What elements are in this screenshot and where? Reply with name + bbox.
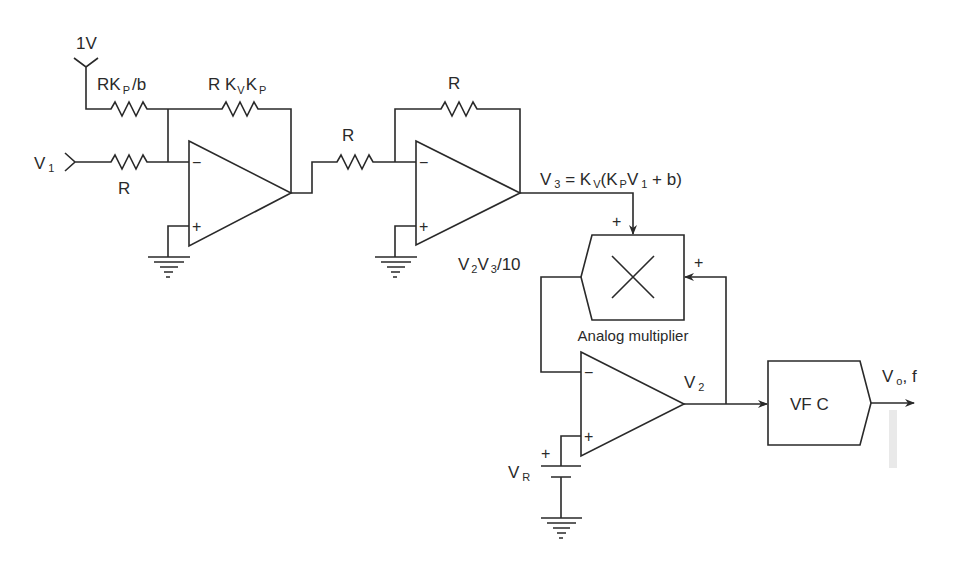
- svg-text:Analog multiplier: Analog multiplier: [578, 327, 689, 344]
- resistor-r-feedback2: R: [395, 74, 520, 193]
- vfc-block: VF C: [768, 361, 871, 445]
- svg-text:Vo, f: Vo, f: [882, 367, 917, 387]
- svg-text:R: R: [448, 74, 460, 93]
- svg-text:R: R: [118, 179, 130, 198]
- svg-text:V2V3/10: V2V3/10: [458, 255, 521, 275]
- vo-output: Vo, f: [871, 367, 917, 403]
- svg-text:+: +: [584, 428, 593, 445]
- multiply-icon: [612, 256, 654, 298]
- resistor-r-kv-kp: R KVKP: [168, 75, 291, 193]
- svg-text:VF C: VF C: [790, 395, 829, 414]
- ground-icon: [148, 257, 190, 277]
- feedback-wire: [541, 277, 581, 372]
- svg-text:+: +: [694, 254, 703, 271]
- svg-text:−: −: [192, 154, 201, 171]
- opamp-1: − +: [168, 141, 291, 257]
- reference-voltage-label: 1V: [76, 34, 97, 53]
- v3-signal: V3 = KV(KPV1 + b) +: [520, 170, 682, 234]
- svg-text:+: +: [612, 213, 621, 230]
- resistor-rkp-b: RKP/b: [97, 75, 168, 116]
- resistor-r-input2: R: [291, 126, 416, 193]
- svg-text:RKP/b: RKP/b: [97, 75, 146, 96]
- opamp-2: − +: [395, 141, 520, 257]
- battery-icon: + VR: [508, 436, 581, 518]
- resistor-r-input1: R: [107, 109, 189, 198]
- svg-text:V2: V2: [684, 373, 704, 393]
- ground-icon: [541, 518, 582, 538]
- input-terminal-icon: [65, 153, 107, 171]
- svg-text:+: +: [419, 218, 428, 235]
- svg-text:R KVKP: R KVKP: [208, 75, 266, 96]
- svg-text:+: +: [541, 445, 550, 462]
- svg-text:R: R: [342, 126, 354, 145]
- ground-icon: [375, 257, 417, 277]
- svg-text:V1: V1: [34, 154, 54, 174]
- analog-multiplier: Analog multiplier + V2V3/10: [458, 235, 703, 344]
- circuit-diagram: 1V RKP/b R KVKP V1 R − + R R: [0, 0, 957, 568]
- svg-text:+: +: [192, 218, 201, 235]
- svg-text:−: −: [584, 364, 593, 381]
- svg-text:VR: VR: [508, 463, 530, 483]
- scan-smudge: [889, 410, 897, 468]
- v1-input: V1: [34, 153, 107, 174]
- svg-text:V3 = KV(KPV1 + b): V3 = KV(KPV1 + b): [540, 170, 682, 190]
- reference-input: 1V: [74, 34, 107, 109]
- svg-text:−: −: [419, 154, 428, 171]
